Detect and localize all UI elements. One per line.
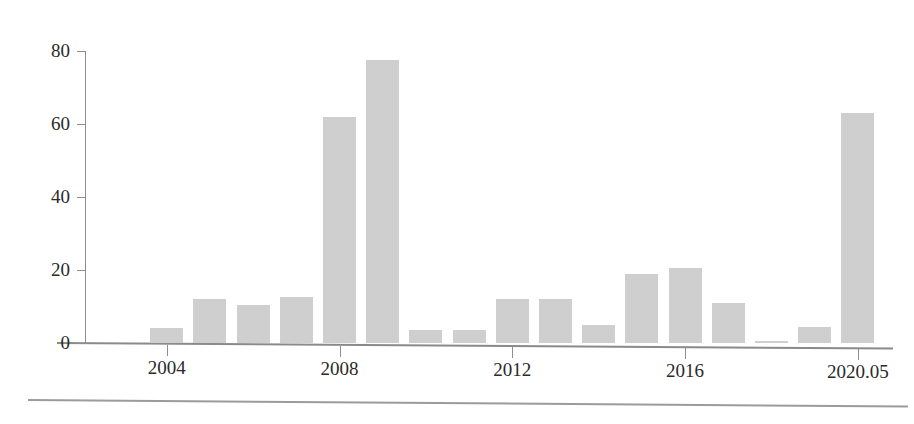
x-tick-label: 2016	[666, 361, 704, 380]
bar	[193, 299, 226, 343]
x-tick-mark	[340, 346, 341, 357]
bar	[409, 330, 442, 343]
x-tick-label: 2012	[493, 360, 531, 379]
bar	[625, 274, 658, 343]
x-tick-label: 2020.05	[827, 362, 889, 381]
bar	[323, 117, 356, 343]
x-axis-line	[57, 342, 893, 350]
x-tick-label: 2004	[148, 358, 186, 377]
bar	[841, 113, 874, 343]
x-tick-mark	[858, 349, 859, 360]
x-tick-mark	[167, 345, 168, 356]
bar-chart: 020406080 20042008201220162020.05	[0, 0, 914, 424]
bar	[237, 305, 270, 343]
bar	[798, 327, 831, 343]
x-tick-mark	[512, 347, 513, 358]
bar	[150, 328, 183, 343]
bar	[453, 330, 486, 343]
bar	[582, 325, 615, 343]
bar	[539, 299, 572, 343]
x-tick-mark	[685, 348, 686, 359]
y-tick-mark	[77, 343, 86, 344]
bar	[496, 299, 529, 343]
bar	[366, 60, 399, 343]
bar	[755, 341, 788, 343]
page-rule-line	[28, 399, 908, 407]
bar	[712, 303, 745, 343]
bar	[280, 297, 313, 343]
bars-container	[0, 45, 914, 343]
bar	[669, 268, 702, 343]
x-tick-label: 2008	[321, 359, 359, 378]
